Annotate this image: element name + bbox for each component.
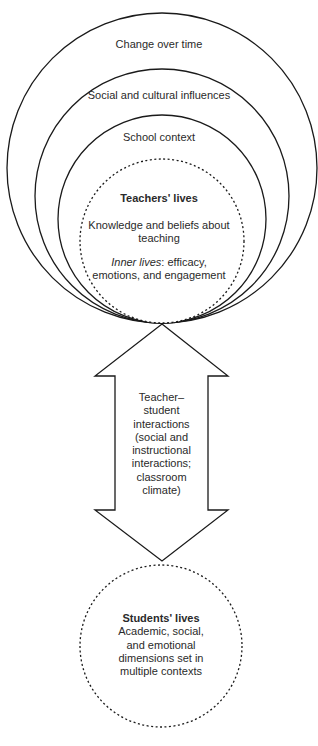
ring-label-social-cultural: Social and cultural influences (0, 89, 318, 102)
teachers-lives-title: Teachers' lives (0, 192, 318, 205)
arrow-line: classroom (115, 471, 208, 484)
arrow-text: Teacher– student interactions (social an… (115, 391, 208, 497)
teachers-knowledge-line1: Knowledge and beliefs about (0, 219, 318, 232)
arrow-line: student (115, 404, 208, 417)
inner-lives-rest: : efficacy, (161, 256, 206, 268)
teachers-inner-lives-line1: Inner lives: efficacy, (0, 256, 318, 269)
arrow-line: (social and (115, 431, 208, 444)
students-line: multiple contexts (80, 665, 242, 678)
arrow-line: interactions (115, 418, 208, 431)
ring-label-school-context: School context (0, 131, 318, 144)
arrow-line: climate) (115, 484, 208, 497)
ring-label-change-over-time: Change over time (0, 38, 318, 51)
inner-lives-italic: Inner lives (111, 256, 161, 268)
arrow-line: instructional (115, 444, 208, 457)
students-line: dimensions set in (80, 652, 242, 665)
teachers-inner-lives-line2: emotions, and engagement (0, 269, 318, 282)
arrow-line: interactions; (115, 457, 208, 470)
students-line: and emotional (80, 639, 242, 652)
students-lives-title: Students' lives (80, 612, 242, 625)
teachers-knowledge-line2: teaching (0, 232, 318, 245)
arrow-line: Teacher– (115, 391, 208, 404)
students-line: Academic, social, (80, 625, 242, 638)
students-text: Students' lives Academic, social, and em… (80, 612, 242, 678)
